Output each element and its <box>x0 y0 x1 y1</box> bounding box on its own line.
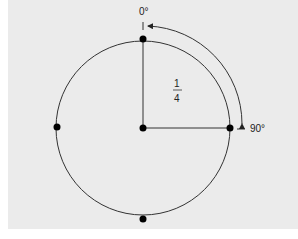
point-top <box>140 36 147 43</box>
fraction-numerator: 1 <box>174 78 180 89</box>
point-center <box>140 125 147 132</box>
point-right <box>227 125 234 132</box>
point-left <box>54 124 61 131</box>
label-90-degree: 90° <box>250 123 265 134</box>
circle-diagram <box>0 0 298 239</box>
fraction-denominator: 4 <box>174 93 180 104</box>
point-bottom <box>140 216 147 223</box>
label-0-degree: 0° <box>139 6 149 17</box>
